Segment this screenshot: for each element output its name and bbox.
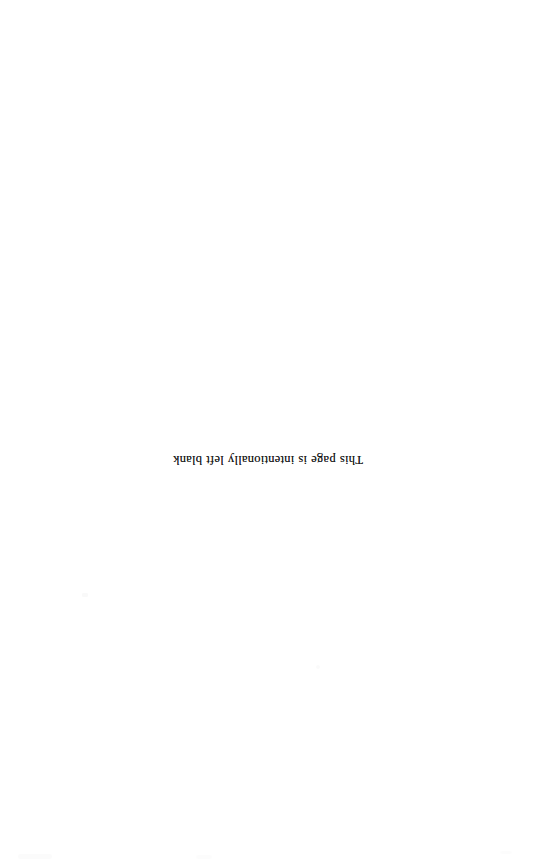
scanned-page: This page is intentionally left blank [0,0,536,860]
blank-page-notice-text: This page is intentionally left blank [173,453,363,466]
scan-speck [18,854,52,859]
scan-speck [316,665,320,669]
scan-speck [196,855,212,859]
scan-speck [82,593,88,597]
scan-speck [500,851,512,854]
blank-page-notice-container: This page is intentionally left blank [0,450,536,468]
